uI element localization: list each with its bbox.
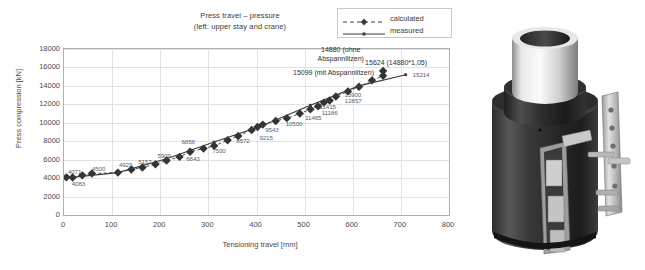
- y-tick-label: 16000: [26, 62, 60, 71]
- y-tick-label: 12000: [26, 99, 60, 108]
- legend-label-measured: measured: [390, 26, 423, 35]
- data-point-label: 7500: [212, 146, 225, 153]
- data-point-label: 6643: [186, 154, 199, 161]
- hydraulic-fitting-upper: [588, 152, 614, 157]
- y-tick-label: 4000: [26, 173, 60, 182]
- data-point-label: 9543: [265, 126, 278, 133]
- y-axis-title: Press compression [kN]: [14, 39, 23, 179]
- x-tick-label: 300: [192, 220, 222, 229]
- data-marker-measured: [64, 177, 65, 180]
- chart-title-line2: (left: upper stay and crane): [130, 21, 350, 32]
- data-marker-measured: [117, 171, 120, 174]
- chart-title: Press travel – pressure (left: upper sta…: [130, 10, 350, 32]
- series-line-calculated: [66, 71, 383, 178]
- legend-item-calculated[interactable]: calculated: [342, 12, 447, 24]
- x-tick-label: 800: [433, 220, 463, 229]
- clamp-block-lower: [548, 196, 564, 222]
- y-tick-label: 14000: [26, 80, 60, 89]
- y-tick-label: 18000: [26, 44, 60, 53]
- legend-item-measured[interactable]: measured: [342, 24, 447, 36]
- annotation-line-1: 15099 (mit Abspannlitzen): [293, 69, 374, 76]
- data-point-label: 9215: [259, 133, 272, 140]
- data-marker-measured: [404, 73, 407, 76]
- y-tick-label: 0: [26, 210, 60, 219]
- x-tick-label: 500: [289, 220, 319, 229]
- data-marker-measured: [358, 84, 361, 87]
- data-point-label: 6858: [181, 138, 194, 145]
- piston-bore: [520, 31, 570, 47]
- data-point-label: 12857: [345, 96, 362, 103]
- y-tick-label: 10000: [26, 117, 60, 126]
- hydraulic-fitting-fourth: [598, 206, 618, 211]
- x-tick-label: 600: [337, 220, 367, 229]
- clamp-block-upper: [546, 160, 562, 186]
- hydraulic-press-cylinder-photo: [462, 0, 645, 270]
- y-tick-label: 6000: [26, 154, 60, 163]
- data-point-label: 4083: [72, 179, 85, 186]
- y-tick-label: 8000: [26, 136, 60, 145]
- legend-label-calculated: calculated: [390, 14, 424, 23]
- x-tick-label: 700: [385, 220, 415, 229]
- chart-legend: calculated measured: [337, 8, 452, 38]
- legend-swatch-dashed-diamond: [342, 13, 386, 23]
- annotation-line-1: 14880 (ohne: [321, 46, 360, 53]
- data-point-label: 11415: [320, 103, 336, 110]
- legend-swatch-solid-line: [342, 25, 386, 35]
- plot-series-svg: [64, 49, 449, 215]
- data-point-label: 15214: [413, 71, 430, 78]
- data-marker-measured: [261, 124, 264, 127]
- x-tick-label: 200: [144, 220, 174, 229]
- x-tick-label: 100: [96, 220, 126, 229]
- data-marker-measured: [213, 141, 216, 144]
- chart-panel: Press travel – pressure (left: upper sta…: [0, 0, 462, 270]
- data-marker-measured: [309, 104, 312, 107]
- data-point-label: 11465: [305, 114, 321, 121]
- data-point-label: 5157: [138, 157, 151, 164]
- annotation-line-2: Abspannlitzen): [318, 55, 364, 62]
- data-point-label: 10500: [286, 119, 303, 126]
- hydraulic-fitting-third: [596, 190, 618, 195]
- chart-title-line1: Press travel – pressure: [200, 11, 279, 20]
- x-axis-tick-labels: 0100200300400500600700800: [63, 220, 450, 232]
- data-point-label: 4500: [92, 164, 105, 171]
- x-tick-label: 0: [48, 220, 78, 229]
- screenshot-root: Press travel – pressure (left: upper sta…: [0, 0, 645, 270]
- data-marker-calculated: [379, 67, 387, 75]
- chart-annotation: 15099 (mit Abspannlitzen): [293, 68, 374, 77]
- port-screw: [538, 128, 541, 131]
- chart-annotation: 15624 (14880*1,05): [365, 58, 427, 67]
- data-point-label: 8572: [236, 137, 249, 144]
- data-point-label: 4929: [119, 161, 132, 168]
- annotation-line-1: 15624 (14880*1,05): [365, 59, 427, 66]
- plot-area: 4071408345004929515759096858664375008572…: [63, 48, 450, 216]
- data-point-label: 5909: [157, 152, 170, 159]
- y-tick-label: 2000: [26, 191, 60, 200]
- x-axis-title: Tensioning travel [mm]: [160, 240, 360, 249]
- chart-annotation: 14880 (ohneAbspannlitzen): [318, 45, 364, 63]
- hydraulic-fitting-lower: [608, 158, 630, 164]
- x-tick-label: 400: [241, 220, 271, 229]
- y-axis-tick-labels: 0200040006000800010000120001400016000180…: [22, 48, 60, 216]
- data-point-label: 4071: [68, 167, 81, 174]
